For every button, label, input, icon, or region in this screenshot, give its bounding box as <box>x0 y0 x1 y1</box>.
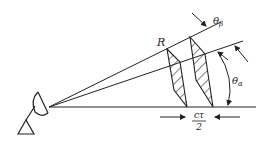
resolution-cells <box>167 37 213 107</box>
svg-text:2: 2 <box>195 122 202 132</box>
resolution-cell-far <box>190 37 213 107</box>
lower-beam-edge <box>49 41 243 107</box>
pulse-width-label: cτ 2 <box>192 110 206 132</box>
beamwidth-label: θβ <box>213 15 223 28</box>
resolution-cell-near <box>167 49 187 107</box>
range-label: R <box>156 36 165 49</box>
radar-diagram: R θβ θα cτ 2 <box>0 0 269 148</box>
radar-antenna-icon <box>18 92 48 134</box>
elevation-arc <box>218 52 230 105</box>
elevation-label: θα <box>232 75 243 88</box>
svg-text:cτ: cτ <box>194 110 205 120</box>
